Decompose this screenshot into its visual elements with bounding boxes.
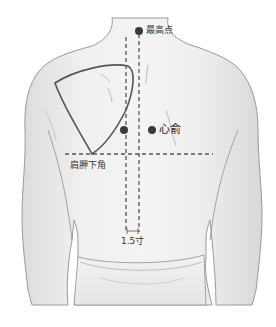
torso-silhouette <box>22 18 262 305</box>
xinshu-point-marker <box>148 126 156 134</box>
spine-side-point-marker <box>120 126 128 134</box>
back-illustration <box>0 0 276 327</box>
pants <box>74 255 206 305</box>
top-point-label: 最高点 <box>146 26 173 35</box>
distance-label: 1.5寸 <box>121 237 144 246</box>
xinshu-label: 心俞 <box>159 124 181 135</box>
top-point-marker <box>135 27 143 35</box>
scapula-angle-label: 肩胛下角 <box>70 161 106 170</box>
